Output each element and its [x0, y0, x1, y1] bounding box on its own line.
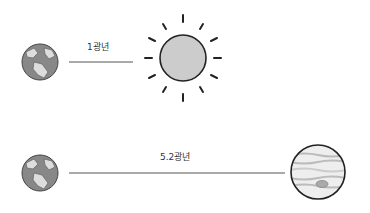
- distance-label: 5.2광년: [160, 150, 190, 163]
- jupiter-icon: [290, 145, 346, 199]
- earth-icon: [22, 44, 58, 80]
- distance-label: 1광년: [87, 40, 109, 53]
- sun-icon: [145, 15, 221, 101]
- distance-diagram: [0, 0, 370, 213]
- earth-icon: [22, 155, 58, 191]
